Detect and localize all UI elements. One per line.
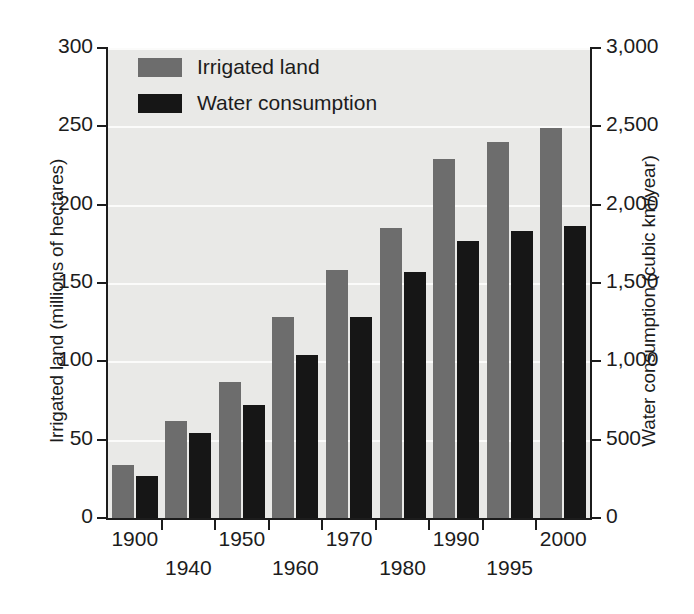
left-axis-tick <box>97 439 106 441</box>
bar-irrigated-land-1940 <box>165 421 187 518</box>
right-axis-tick-label: 2,000 <box>606 191 676 215</box>
bar-irrigated-land-1900 <box>112 465 134 518</box>
left-axis-tick-label: 200 <box>33 191 93 215</box>
left-axis-tick <box>97 204 106 206</box>
right-axis-tick-label: 500 <box>606 426 676 450</box>
gridline <box>108 48 590 50</box>
left-axis-spine <box>106 47 108 520</box>
x-axis-tick-label-1960: 1960 <box>255 556 335 580</box>
right-axis-tick <box>592 47 601 49</box>
bar-water-consumption-1980 <box>404 272 426 518</box>
left-axis-tick-label: 0 <box>33 504 93 528</box>
bar-water-consumption-2000 <box>564 226 586 518</box>
legend-item-water-consumption: Water consumption <box>138 88 377 118</box>
left-axis-tick <box>97 47 106 49</box>
bar-irrigated-land-1995 <box>487 142 509 518</box>
bar-irrigated-land-1990 <box>433 159 455 518</box>
legend-label: Irrigated land <box>197 55 320 79</box>
right-axis-tick <box>592 517 601 519</box>
bar-water-consumption-1995 <box>511 231 533 518</box>
x-axis-tick-label-1990: 1990 <box>416 527 496 551</box>
bar-water-consumption-1960 <box>296 355 318 518</box>
right-axis-tick-label: 1,500 <box>606 269 676 293</box>
chart-figure: Irrigated land (millions of hectares) Wa… <box>0 0 694 614</box>
bar-irrigated-land-1950 <box>219 382 241 518</box>
right-axis-tick-label: 1,000 <box>606 347 676 371</box>
bar-water-consumption-1990 <box>457 241 479 518</box>
bar-water-consumption-1900 <box>136 476 158 518</box>
x-axis-tick-label-1900: 1900 <box>95 527 175 551</box>
right-axis-tick-label: 0 <box>606 504 676 528</box>
gridline <box>108 205 590 207</box>
left-axis-tick-label: 250 <box>33 112 93 136</box>
x-axis-tick-label-1970: 1970 <box>309 527 389 551</box>
bar-irrigated-land-1980 <box>380 228 402 518</box>
legend-swatch-icon <box>138 94 182 113</box>
bar-irrigated-land-1960 <box>272 317 294 518</box>
legend-swatch-icon <box>138 58 182 77</box>
left-axis-tick <box>97 282 106 284</box>
chart-legend: Irrigated landWater consumption <box>138 52 377 124</box>
bar-water-consumption-1970 <box>350 317 372 518</box>
x-axis-tick-label-1950: 1950 <box>202 527 282 551</box>
right-axis-tick <box>592 204 601 206</box>
bottom-axis-spine <box>106 518 592 520</box>
left-axis-tick <box>97 125 106 127</box>
left-axis-tick <box>97 517 106 519</box>
legend-item-irrigated-land: Irrigated land <box>138 52 377 82</box>
right-axis-tick-label: 3,000 <box>606 34 676 58</box>
x-axis-tick-label-1940: 1940 <box>148 556 228 580</box>
right-axis-tick-label: 2,500 <box>606 112 676 136</box>
left-axis-tick-label: 300 <box>33 34 93 58</box>
bar-water-consumption-1950 <box>243 405 265 518</box>
bar-irrigated-land-1970 <box>326 270 348 518</box>
right-axis-tick <box>592 282 601 284</box>
left-axis-tick-label: 150 <box>33 269 93 293</box>
x-axis-tick-label-1995: 1995 <box>470 556 550 580</box>
x-axis-tick-label-1980: 1980 <box>363 556 443 580</box>
left-axis-tick <box>97 360 106 362</box>
right-axis-tick <box>592 360 601 362</box>
x-axis-tick-label-2000: 2000 <box>523 527 603 551</box>
legend-label: Water consumption <box>197 91 377 115</box>
bar-irrigated-land-2000 <box>540 128 562 518</box>
bar-water-consumption-1940 <box>189 433 211 518</box>
right-axis-tick <box>592 439 601 441</box>
left-axis-tick-label: 50 <box>33 426 93 450</box>
left-axis-tick-label: 100 <box>33 347 93 371</box>
gridline <box>108 126 590 128</box>
right-axis-tick <box>592 125 601 127</box>
